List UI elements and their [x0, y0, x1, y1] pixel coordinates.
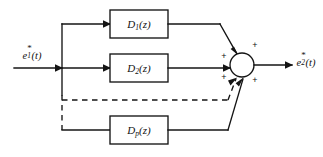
path-dp-group [62, 77, 244, 144]
wire-dp-into-summer [228, 79, 243, 130]
block-label-d2-subscript: 2 [135, 67, 139, 76]
block-label-d2: D2(z) [127, 63, 151, 74]
block-label-dp-subscript: p [135, 129, 139, 138]
output-signal-affixes: *2 [301, 56, 305, 67]
input-signal-affixes: *1 [27, 49, 31, 60]
summing-sign-top: + [252, 41, 257, 50]
block-label-d1-base: D [127, 18, 135, 30]
output-signal-argument: (t) [305, 57, 315, 68]
input-wire-group [14, 64, 63, 72]
output-wire-group [254, 61, 293, 69]
block-label-dp-argument: (z) [139, 124, 151, 136]
arrowhead-output [285, 61, 293, 69]
summing-sign-left: + [221, 52, 226, 61]
block-label-d1-subscript: 1 [135, 23, 139, 32]
arrowhead-dashed-into-summer [228, 78, 237, 86]
block-label-d1: D1(z) [127, 19, 151, 30]
summing-sign-lower-right: + [252, 76, 257, 85]
input-signal-label: e*1(t) [23, 49, 42, 62]
input-signal-argument: (t) [31, 50, 41, 61]
block-label-dp-base: D [127, 124, 135, 136]
block-label-dp: Dp(z) [127, 125, 151, 136]
block-label-d1-argument: (z) [139, 18, 151, 30]
block-label-d2-argument: (z) [139, 62, 151, 74]
block-diagram-canvas: D1(z) D2(z) Dp(z) e*1(t) e*2(t) + + + + [0, 0, 323, 157]
summing-junction-circle[interactable] [230, 53, 254, 77]
output-signal-subscript: 2 [301, 59, 305, 67]
input-signal-subscript: 1 [27, 52, 31, 60]
output-signal-label: e*2(t) [297, 56, 316, 69]
diagram-vector-layer [0, 0, 323, 157]
block-label-d2-base: D [127, 62, 135, 74]
summing-sign-lower-left: + [221, 73, 226, 82]
